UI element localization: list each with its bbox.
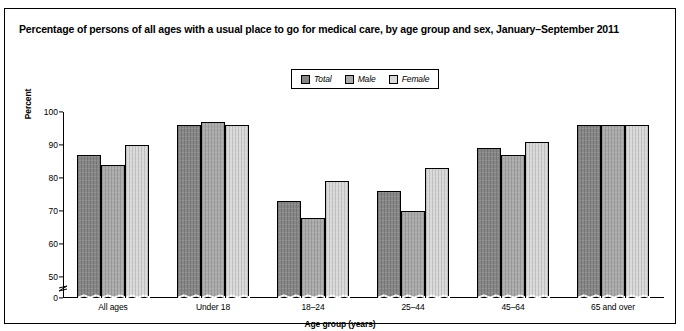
x-axis-label: Age group (years) [5,319,675,329]
chart-title: Percentage of persons of all ages with a… [19,23,659,35]
axis-break-zigzag [426,285,448,290]
legend-label: Total [314,74,332,84]
y-axis-tick-label: 60 [49,239,58,249]
y-axis-tick-mark [59,177,63,178]
legend-swatch-icon [389,75,398,84]
axis-break-zigzag [578,285,600,290]
bar-group [577,112,649,298]
bar-group [477,112,549,298]
axis-break-zigzag [202,285,224,290]
legend-item-total: Total [301,74,332,84]
legend-label: Male [358,74,376,84]
y-axis-tick-label: 100 [44,107,58,117]
bar-male [401,211,425,298]
bar-female [525,142,549,298]
axis-break-icon [58,283,69,295]
bar-male [201,122,225,298]
bar-total [377,191,401,298]
x-axis-tick-label: 18–24 [301,302,324,312]
legend-item-male: Male [345,74,376,84]
axis-break-zigzag [526,285,548,290]
axis-break-zigzag [278,285,300,290]
y-axis-tick-mark [59,111,63,112]
y-axis-tick-label: 80 [49,173,58,183]
axis-break-zigzag [326,285,348,290]
x-axis-tick-label: Under 18 [196,302,230,312]
bar-female [325,181,349,298]
axis-break-zigzag [226,285,248,290]
legend-swatch-icon [345,75,354,84]
axis-break-zigzag [478,285,500,290]
bar-group [377,112,449,298]
bar-male [601,125,625,298]
bar-total [477,148,501,298]
axis-break-zigzag [502,285,524,290]
x-axis-tick-label: 65 and over [591,302,635,312]
axis-break-zigzag [402,285,424,290]
chart-legend: TotalMaleFemale [291,69,439,89]
axis-break-zigzag [102,285,124,290]
axis-break-zigzag [178,285,200,290]
bar-total [77,155,101,298]
axis-break-zigzag [378,285,400,290]
bar-female [425,168,449,298]
y-axis-tick-mark [59,243,63,244]
axis-break-zigzag [126,285,148,290]
bar-male [301,218,325,298]
bar-group [77,112,149,298]
bar-female [225,125,249,298]
bar-female [625,125,649,298]
bar-total [577,125,601,298]
y-axis-tick-mark [59,297,63,298]
x-axis-tick-label: All ages [98,302,127,312]
axis-break-zigzag [78,285,100,290]
y-axis-tick-label: 50 [49,272,58,282]
plot-area: 05060708090100 [63,112,663,298]
legend-label: Female [402,74,430,84]
y-axis-tick-mark [59,144,63,145]
bar-female [125,145,149,298]
axis-break-zigzag [602,285,624,290]
x-axis-tick-label: 25–44 [401,302,424,312]
bar-male [501,155,525,298]
bar-group [177,112,249,298]
legend-swatch-icon [301,75,310,84]
legend-item-female: Female [389,74,430,84]
bar-group [277,112,349,298]
axis-break-zigzag [302,285,324,290]
bar-total [277,201,301,298]
y-axis-label: Percent [23,69,33,139]
y-axis-tick-mark [59,210,63,211]
chart-frame: Percentage of persons of all ages with a… [4,8,676,324]
bar-male [101,165,125,298]
y-axis-tick-label: 70 [49,206,58,216]
bar-total [177,125,201,298]
x-axis-tick-label: 45–64 [501,302,524,312]
y-axis-tick-label: 90 [49,140,58,150]
y-axis-tick-mark [59,276,63,277]
axis-break-zigzag [626,285,648,290]
